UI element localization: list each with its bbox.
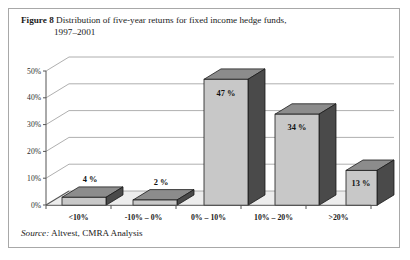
x-tick-label-3: 10% – 20% (254, 213, 293, 222)
figure-caption: Figure 8 Distribution of five-year retur… (21, 15, 387, 27)
depth-connector-50 (46, 57, 69, 71)
figure-title-line1: Distribution of five-year returns for fi… (56, 15, 286, 25)
source-label: Source: (21, 228, 49, 238)
bar-front-1 (133, 200, 177, 205)
x-tick-marks (46, 205, 371, 209)
bar-chart: 50% 40% 30% 20% 10% 0% 4 % 2 % (9, 35, 401, 227)
x-tick-label-1: -10% – 0% (125, 213, 163, 222)
bar-front-0 (62, 197, 106, 205)
y-tick-label-40: 40% (27, 93, 42, 102)
y-tick-label-30: 30% (27, 120, 42, 129)
y-tick-label-20: 20% (27, 147, 42, 156)
bar-group-4[interactable]: 13 % (346, 160, 394, 205)
bar-group-3[interactable]: 34 % (275, 104, 336, 206)
depth-connector-10 (46, 164, 69, 178)
y-tick-label-10: 10% (27, 174, 42, 183)
x-tick-label-0: <10% (68, 213, 88, 222)
y-tick-label-50: 50% (27, 67, 42, 76)
y-tick-label-0: 0% (31, 201, 42, 210)
depth-connector-20 (46, 137, 69, 151)
figure-page: Figure 8 Distribution of five-year retur… (0, 0, 410, 260)
bar-front-2 (204, 79, 248, 205)
figure-frame: Figure 8 Distribution of five-year retur… (8, 8, 400, 248)
bar-side-2 (248, 69, 265, 205)
source-text: Altvest, CMRA Analysis (51, 228, 143, 238)
bar-value-label-4: 13 % (352, 179, 371, 188)
bar-side-3 (319, 104, 336, 206)
bar-value-label-1: 2 % (154, 178, 169, 187)
figure-label: Figure 8 (21, 15, 54, 25)
bar-group-2[interactable]: 47 % (204, 69, 265, 205)
bar-value-label-3: 34 % (288, 123, 307, 132)
x-tick-labels: <10% -10% – 0% 0% – 10% 10% – 20% >20% (68, 213, 348, 222)
bar-value-label-2: 47 % (217, 89, 236, 98)
bar-group-0[interactable]: 4 % (62, 175, 123, 205)
depth-connectors-group (46, 57, 69, 205)
source-note: Source: Altvest, CMRA Analysis (21, 228, 143, 238)
depth-connector-40 (46, 84, 69, 98)
depth-connector-30 (46, 111, 69, 125)
x-tick-label-2: 0% – 10% (191, 213, 226, 222)
bar-value-label-0: 4 % (83, 175, 98, 184)
y-tick-labels: 50% 40% 30% 20% 10% 0% (27, 67, 42, 210)
x-tick-label-4: >20% (328, 213, 348, 222)
